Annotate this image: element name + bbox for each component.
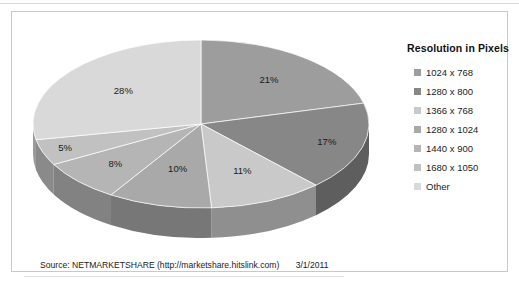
top-divider — [0, 3, 519, 4]
chart-page: 21%17%11%10%8%5%28% Resolution in Pixels… — [0, 0, 519, 284]
pie-chart-svg: 21%17%11%10%8%5%28% — [24, 20, 379, 238]
legend-swatch-icon — [414, 88, 421, 95]
legend-item[interactable]: 1366 x 768 — [414, 101, 519, 120]
legend-list: 1024 x 7681280 x 8001366 x 7681280 x 102… — [396, 63, 519, 196]
legend: Resolution in Pixels 1024 x 7681280 x 80… — [396, 42, 519, 196]
legend-title: Resolution in Pixels — [396, 42, 519, 54]
source-footer: Source: NETMARKETSHARE (http://marketsha… — [40, 260, 328, 270]
legend-item[interactable]: 1280 x 800 — [414, 82, 519, 101]
pie-slice-label: 11% — [233, 165, 252, 176]
legend-item-label: 1280 x 800 — [426, 87, 473, 97]
pie-chart: 21%17%11%10%8%5%28% — [24, 20, 379, 238]
chart-frame: 21%17%11%10%8%5%28% Resolution in Pixels… — [11, 11, 508, 272]
pie-slice-label: 17% — [317, 136, 337, 147]
pie-slice-label: 8% — [108, 158, 122, 169]
legend-item[interactable]: 1440 x 900 — [414, 139, 519, 158]
pie-slice-label: 21% — [259, 74, 279, 85]
legend-swatch-icon — [414, 164, 421, 171]
source-text: Source: NETMARKETSHARE (http://marketsha… — [40, 260, 279, 270]
legend-item-label: 1366 x 768 — [426, 106, 473, 116]
pie-slice-label: 28% — [114, 85, 134, 96]
legend-swatch-icon — [414, 126, 421, 133]
legend-item-label: 1680 x 1050 — [426, 163, 478, 173]
pie-slice-label: 5% — [58, 142, 72, 153]
legend-swatch-icon — [414, 183, 421, 190]
source-date: 3/1/2011 — [296, 260, 329, 270]
legend-item-label: 1440 x 900 — [426, 144, 473, 154]
legend-item[interactable]: 1280 x 1024 — [414, 120, 519, 139]
legend-item-label: Other — [426, 182, 450, 192]
legend-item[interactable]: 1024 x 768 — [414, 63, 519, 82]
legend-swatch-icon — [414, 145, 421, 152]
legend-swatch-icon — [414, 69, 421, 76]
footer-divider — [24, 276, 344, 277]
legend-item[interactable]: Other — [414, 177, 519, 196]
legend-item[interactable]: 1680 x 1050 — [414, 158, 519, 177]
legend-item-label: 1024 x 768 — [426, 68, 473, 78]
legend-item-label: 1280 x 1024 — [426, 125, 478, 135]
legend-swatch-icon — [414, 107, 421, 114]
pie-slice-label: 10% — [168, 163, 188, 174]
